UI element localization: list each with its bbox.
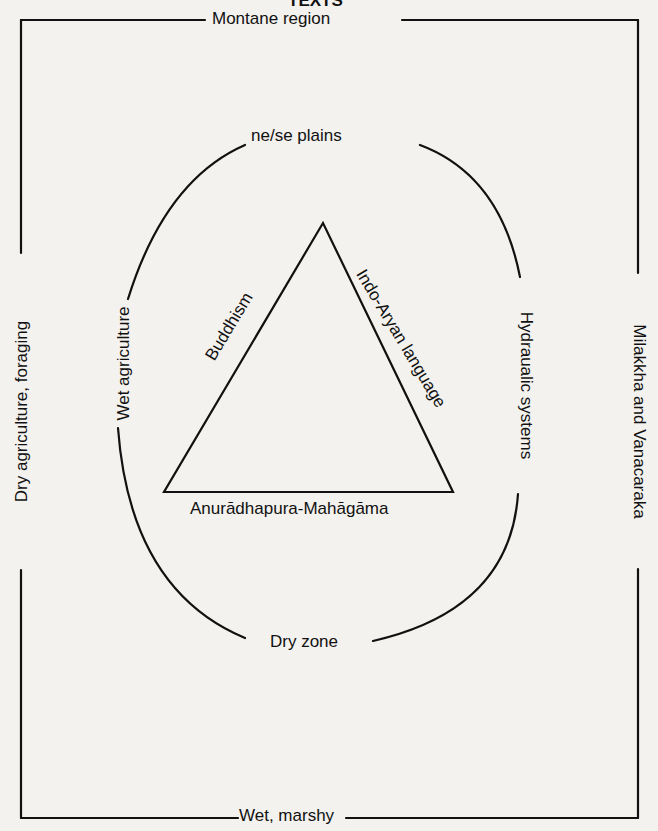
outer-left-label: Dry agriculture, foraging [13,304,30,520]
circle-arc-bottom-left [118,428,245,638]
outer-bottom-label: Wet, marshy [239,807,334,824]
figure-title: TEXTS [288,0,343,9]
circle-bottom-label: Dry zone [270,633,338,650]
triangle-base-label: Anurādhapura-Mahāgāma [190,500,388,517]
diagram-lines [0,0,658,831]
outer-right-label: Milakkha and Vanacaraka [631,309,648,535]
outer-top-label: Montane region [212,10,330,27]
circle-arc-top-left [128,145,245,299]
circle-right-label: Hydraualic systems [518,306,535,466]
circle-left-label: Wet agriculture [115,299,132,429]
circle-arc-top-right [420,145,520,277]
circle-top-label: ne/se plains [251,127,342,144]
circle-arc-bottom-right [373,494,518,641]
